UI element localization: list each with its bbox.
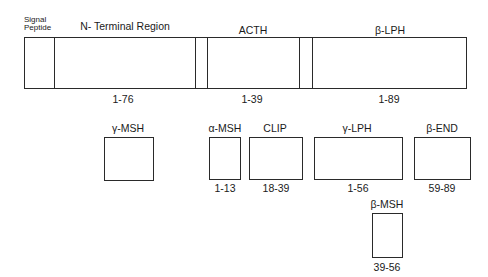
clip-box: [249, 137, 303, 180]
alpha-msh-range: 1-13: [214, 182, 235, 194]
signal-label-line2: Peptide: [24, 24, 51, 32]
divider: [207, 37, 208, 88]
beta-end-box: [414, 137, 471, 180]
n-terminal-label: N- Terminal Region: [80, 20, 170, 32]
beta-end-range: 59-89: [429, 182, 456, 194]
beta-msh-range: 39-56: [374, 261, 401, 273]
gamma-lph-range: 1-56: [347, 182, 368, 194]
beta-msh-label: β-MSH: [371, 198, 404, 210]
beta-lph-range: 1-89: [378, 93, 399, 105]
alpha-msh-label: α-MSH: [209, 122, 242, 134]
acth-label: ACTH: [239, 24, 268, 36]
signal-peptide-label: Signal Peptide: [24, 16, 51, 32]
gamma-lph-box: [314, 137, 403, 180]
gamma-lph-label: γ-LPH: [342, 122, 371, 134]
divider: [312, 37, 313, 88]
divider: [54, 37, 55, 88]
acth-range: 1-39: [241, 93, 262, 105]
divider: [195, 37, 196, 88]
beta-lph-label: β-LPH: [375, 24, 405, 36]
gamma-msh-box: [104, 137, 154, 181]
divider: [299, 37, 300, 88]
beta-msh-box: [372, 213, 403, 258]
alpha-msh-box: [209, 137, 241, 180]
n-terminal-range: 1-76: [112, 93, 133, 105]
beta-end-label: β-END: [426, 122, 458, 134]
clip-range: 18-39: [263, 182, 290, 194]
clip-label: CLIP: [263, 122, 286, 134]
gamma-msh-label: γ-MSH: [112, 122, 144, 134]
precursor-bar: [24, 37, 467, 89]
